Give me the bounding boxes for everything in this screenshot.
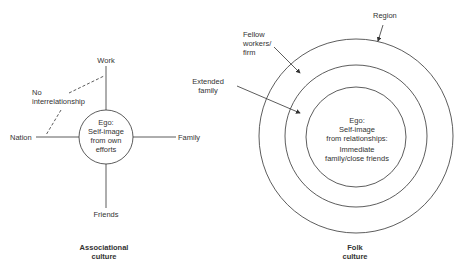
- associational-culture-title: Associational culture: [80, 243, 129, 261]
- ring-label-line-2: workers/: [243, 39, 271, 48]
- label-nation: Nation: [10, 133, 32, 142]
- label-family: Family: [178, 133, 200, 142]
- note-line-1: No: [32, 88, 85, 97]
- ring-label-line-1: Extended: [192, 77, 224, 86]
- arrow-extended-family: [237, 86, 300, 113]
- label-friends: Friends: [93, 210, 118, 219]
- ego-line-2: Self-image: [325, 125, 389, 134]
- ego-line-2: Self-image: [88, 127, 124, 136]
- ego-line-1: Ego:: [325, 116, 389, 125]
- title-line-2: culture: [80, 252, 129, 261]
- label-no-interrelationship: No interrelationship: [32, 88, 85, 106]
- title-line-2: culture: [342, 252, 367, 261]
- ring-label-line-3: firm: [243, 48, 271, 57]
- ring-label-line-2: family: [192, 86, 224, 95]
- folk-culture-title: Folk culture: [342, 243, 367, 261]
- ego-line-4: efforts: [88, 145, 124, 154]
- title-line-1: Associational: [80, 243, 129, 252]
- no-interrelationship-dash-bottom: [46, 110, 61, 135]
- ego-line-1: Ego:: [88, 118, 124, 127]
- title-line-1: Folk: [342, 243, 367, 252]
- folk-ego-text: Ego: Self-image from relationships: Imme…: [325, 116, 389, 163]
- ego-line-3: from relationships:: [325, 134, 389, 143]
- ego-line-4: Immediate: [325, 145, 389, 154]
- note-line-2: interrelationship: [32, 97, 85, 106]
- arrow-region: [378, 25, 383, 41]
- ego-line-3: from own: [88, 136, 124, 145]
- ego-line-5: family/close friends: [325, 154, 389, 163]
- label-fellow-workers: Fellow workers/ firm: [243, 30, 271, 57]
- label-extended-family: Extended family: [192, 77, 224, 95]
- ring-label-line-1: Fellow: [243, 30, 271, 39]
- associational-ego-text: Ego: Self-image from own efforts: [88, 118, 124, 154]
- label-region: Region: [373, 11, 397, 20]
- label-work: Work: [97, 56, 114, 65]
